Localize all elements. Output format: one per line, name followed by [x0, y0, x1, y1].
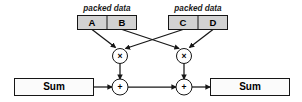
edge-layer: [92, 30, 213, 88]
mul-left-symbol: ×: [118, 51, 123, 61]
edge-b-to-mul-right: [122, 30, 179, 49]
packed-data-group-1[interactable]: packed data A B: [78, 4, 137, 29]
packed-data-group-2[interactable]: packed data C D: [169, 4, 228, 29]
packed-cell-c[interactable]: C: [180, 17, 187, 28]
sum-out-label: Sum: [239, 81, 261, 92]
edge-c-to-mul-left: [126, 30, 184, 49]
edge-a-to-mul-left: [92, 30, 116, 48]
packed-data-caption-2: packed data: [173, 4, 222, 13]
dataflow-diagram: packed data A B packed data C D × × +: [0, 0, 302, 102]
packed-cell-b[interactable]: B: [119, 17, 126, 28]
add-right-symbol: +: [182, 82, 187, 92]
multiplier-left[interactable]: ×: [113, 49, 128, 64]
packed-cell-a[interactable]: A: [89, 17, 96, 28]
diagram-canvas: packed data A B packed data C D × × +: [0, 0, 302, 102]
mul-right-symbol: ×: [182, 51, 187, 61]
sum-in-label: Sum: [43, 81, 65, 92]
multiplier-right[interactable]: ×: [177, 49, 192, 64]
packed-data-caption-1: packed data: [82, 4, 131, 13]
adder-left[interactable]: +: [112, 79, 128, 95]
edge-d-to-mul-right: [190, 30, 214, 48]
packed-cell-d[interactable]: D: [210, 17, 217, 28]
adder-right[interactable]: +: [176, 79, 192, 95]
sum-box-input[interactable]: Sum: [15, 79, 94, 96]
add-left-symbol: +: [118, 82, 123, 92]
sum-box-output[interactable]: Sum: [211, 79, 290, 96]
